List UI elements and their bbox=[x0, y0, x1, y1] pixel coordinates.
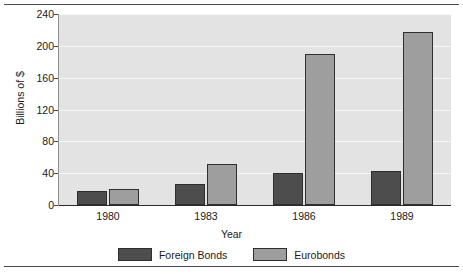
top-divider-rule bbox=[4, 4, 459, 5]
y-tick-label: 120 bbox=[6, 104, 54, 115]
bar bbox=[403, 32, 433, 205]
bar bbox=[305, 54, 335, 205]
bar bbox=[207, 164, 237, 205]
y-axis-line bbox=[58, 14, 59, 206]
bar bbox=[175, 184, 205, 205]
plot-area bbox=[59, 14, 451, 205]
bar-group bbox=[371, 14, 433, 205]
bar-group bbox=[77, 14, 139, 205]
bar bbox=[77, 191, 107, 205]
legend-swatch bbox=[253, 248, 287, 261]
x-tick-label: 1989 bbox=[362, 210, 442, 222]
legend-label: Eurobonds bbox=[294, 249, 345, 261]
bar-group bbox=[273, 14, 335, 205]
legend-label: Foreign Bonds bbox=[159, 249, 227, 261]
bar bbox=[371, 171, 401, 205]
legend-item: Eurobonds bbox=[253, 248, 345, 261]
bar-group bbox=[175, 14, 237, 205]
bar bbox=[109, 189, 139, 205]
x-tick-label: 1986 bbox=[264, 210, 344, 222]
y-tick-label: 0 bbox=[6, 200, 54, 211]
bar-chart-figure: Billions of $ 04080120160200240 19801983… bbox=[0, 0, 463, 274]
x-axis-label: Year bbox=[0, 228, 463, 240]
y-tick-label: 80 bbox=[6, 136, 54, 147]
y-tick-label: 40 bbox=[6, 168, 54, 179]
bar bbox=[273, 173, 303, 205]
x-tick-label: 1980 bbox=[68, 210, 148, 222]
x-axis-line bbox=[59, 205, 451, 206]
bottom-divider-rule bbox=[4, 266, 459, 267]
chart-legend: Foreign BondsEurobonds bbox=[0, 248, 463, 261]
y-tick-label: 160 bbox=[6, 72, 54, 83]
x-tick-label: 1983 bbox=[166, 210, 246, 222]
legend-swatch bbox=[118, 248, 152, 261]
y-tick-label: 200 bbox=[6, 41, 54, 52]
y-tick-label: 240 bbox=[6, 9, 54, 20]
legend-item: Foreign Bonds bbox=[118, 248, 227, 261]
